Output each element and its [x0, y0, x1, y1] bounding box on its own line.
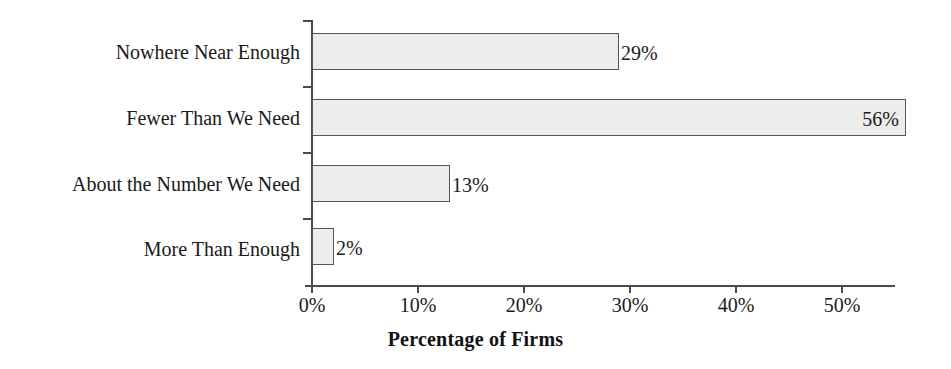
- category-label-3: More Than Enough: [144, 239, 300, 259]
- x-tick-label-1: 10%: [400, 295, 437, 315]
- bar-row-0: 29%: [312, 33, 895, 70]
- x-axis-tick: [523, 285, 525, 293]
- x-axis-tick: [735, 285, 737, 293]
- x-tick-label-4: 40%: [718, 295, 755, 315]
- x-tick-label-0: 0%: [299, 295, 326, 315]
- plot-area: 29% 56% 13% 2%: [312, 20, 895, 285]
- bar-chart-figure: Nowhere Near Enough Fewer Than We Need A…: [0, 0, 951, 369]
- bar-3: 2%: [312, 228, 334, 265]
- bar-row-1: 56%: [312, 99, 895, 136]
- x-axis-line: [305, 285, 895, 287]
- bar-row-2: 13%: [312, 165, 895, 202]
- x-axis-title: Percentage of Firms: [0, 328, 951, 351]
- bar-value-label-1: 56%: [862, 109, 899, 129]
- bar-value-label-2: 13%: [452, 175, 489, 195]
- bar-2: 13%: [312, 165, 450, 202]
- x-axis-tick: [841, 285, 843, 293]
- x-axis-tick: [417, 285, 419, 293]
- y-axis-tick: [303, 218, 312, 220]
- category-label-0: Nowhere Near Enough: [116, 42, 300, 62]
- x-tick-label-5: 50%: [824, 295, 861, 315]
- y-axis-tick: [303, 86, 312, 88]
- x-tick-label-2: 20%: [506, 295, 543, 315]
- x-tick-label-3: 30%: [612, 295, 649, 315]
- x-axis-tick: [629, 285, 631, 293]
- category-label-2: About the Number We Need: [72, 174, 300, 194]
- bar-1: 56%: [312, 99, 906, 136]
- bar-0: 29%: [312, 33, 619, 70]
- y-axis-tick: [303, 20, 312, 22]
- bar-value-label-0: 29%: [621, 43, 658, 63]
- bar-value-label-3: 2%: [336, 238, 363, 258]
- x-axis-tick: [311, 285, 313, 293]
- category-label-1: Fewer Than We Need: [126, 108, 300, 128]
- bar-row-3: 2%: [312, 228, 895, 265]
- y-axis-tick: [303, 152, 312, 154]
